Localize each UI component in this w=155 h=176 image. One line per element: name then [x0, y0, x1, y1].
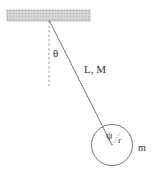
radius-label: r	[118, 135, 121, 145]
ceiling-support	[7, 10, 90, 21]
pendulum-rod	[49, 20, 112, 145]
mass-label: m	[138, 142, 146, 153]
theta-label: θ	[53, 47, 58, 59]
psi-label: ψ	[106, 130, 113, 141]
rod-label: L, M	[84, 63, 106, 75]
pendulum-diagram: θ L, M ψ r m	[0, 0, 155, 176]
